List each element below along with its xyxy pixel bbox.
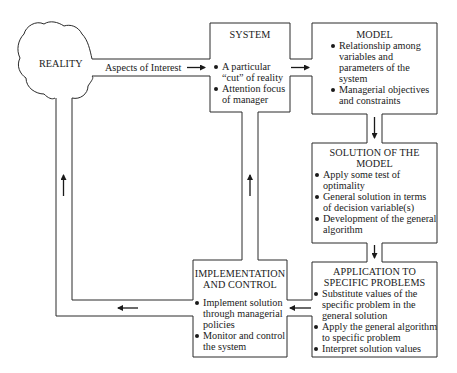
solution-bullet: Apply some test ofoptimality [314,169,436,191]
application-bullet: Interpret solution values [313,343,437,354]
application-bullet: Apply the general algorithmto specific p… [313,321,437,343]
application-title: APPLICATION TOSPECIFIC PROBLEMS [312,266,437,288]
model-title: MODEL [312,29,437,40]
model-bullet: Managerial objectivesand constraints [330,84,429,106]
implementation-bullet: Implement solutionthrough managerialpoli… [194,297,285,330]
system-title: SYSTEM [210,29,290,40]
reality-label: REALITY [39,58,83,69]
implementation-bullets: Implement solutionthrough managerialpoli… [194,297,285,352]
application-bullets: Substitute values of thespecific problem… [313,288,437,354]
solution-title: SOLUTION OF THEMODEL [312,147,437,169]
system-bullet: A particular“cut” of reality [213,61,285,83]
aspects-of-interest-label: Aspects of Interest [105,62,181,73]
application-bullet: Substitute values of thespecific problem… [313,288,437,321]
implementation-title: IMPLEMENTATIONAND CONTROL [193,268,287,290]
solution-bullet: General solution in termsof decision var… [314,191,436,213]
solution-bullet: Development of the generalalgorithm [314,213,436,235]
solution-bullets: Apply some test ofoptimality General sol… [314,169,436,235]
model-bullet: Relationship amongvariables andparameter… [330,40,429,84]
model-bullets: Relationship amongvariables andparameter… [330,40,429,106]
system-bullets: A particular“cut” of reality Attention f… [213,61,285,105]
system-bullet: Attention focusof manager [213,83,285,105]
implementation-bullet: Monitor and controlthe system [194,330,285,352]
